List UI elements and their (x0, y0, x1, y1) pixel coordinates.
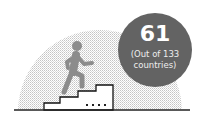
rank-subtitle: (Out of 133 countries) (118, 49, 192, 71)
rank-infographic: 61 (Out of 133 countries) (0, 0, 202, 119)
rank-subtitle-line2: countries) (118, 60, 192, 71)
rank-badge: 61 (Out of 133 countries) (118, 13, 192, 87)
rank-number: 61 (118, 23, 192, 45)
rank-subtitle-line1: (Out of 133 (118, 49, 192, 60)
